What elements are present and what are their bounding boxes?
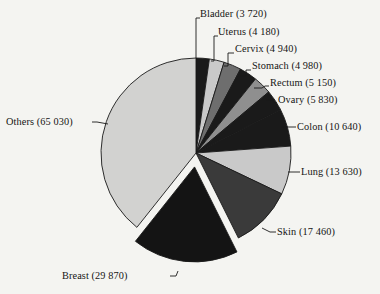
slice-label-stomach: Stomach (4 980) xyxy=(252,60,322,71)
leader-line-uterus xyxy=(211,36,218,61)
slice-label-breast: Breast (29 870) xyxy=(62,270,128,281)
slice-label-others: Others (65 030) xyxy=(6,116,73,127)
leader-line-skin xyxy=(262,228,276,232)
slice-label-uterus: Uterus (4 180) xyxy=(218,26,279,37)
pie-slice-group xyxy=(101,58,291,262)
slice-label-skin: Skin (17 460) xyxy=(277,226,335,237)
pie-chart-figure: Bladder (3 720) Uterus (4 180) Cervix (4… xyxy=(0,0,380,294)
slice-label-bladder: Bladder (3 720) xyxy=(200,8,267,19)
pie-chart-canvas xyxy=(0,0,380,294)
leader-line-bladder xyxy=(196,18,200,58)
slice-label-cervix: Cervix (4 940) xyxy=(235,43,297,54)
slice-label-rectum: Rectum (5 150) xyxy=(270,77,336,88)
slice-label-ovary: Ovary (5 830) xyxy=(278,94,338,105)
slice-label-colon: Colon (10 640) xyxy=(297,121,361,132)
slice-label-lung: Lung (13 630) xyxy=(301,166,362,177)
leader-line-breast xyxy=(170,271,178,276)
